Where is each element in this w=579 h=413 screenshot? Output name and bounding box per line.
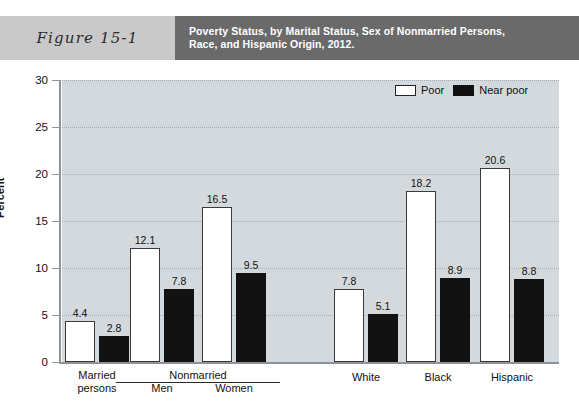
y-tick-mark	[52, 127, 59, 128]
bar-value-label: 5.1	[362, 300, 404, 312]
y-tick-label: 30	[2, 74, 48, 86]
y-tick-mark	[52, 174, 59, 175]
legend-item: Near poor	[453, 84, 528, 96]
figure-header: Figure 15-1 Poverty Status, by Marital S…	[0, 16, 579, 60]
legend-label: Near poor	[479, 84, 528, 96]
legend-swatch-black	[453, 85, 474, 96]
chart-legend: PoorNear poor	[395, 84, 528, 96]
y-tick-label: 25	[2, 121, 48, 133]
figure-title-line-2: Race, and Hispanic Origin, 2012.	[189, 38, 579, 52]
y-tick-mark	[52, 221, 59, 222]
y-axis-line	[59, 80, 61, 363]
y-tick-mark	[52, 268, 59, 269]
bar-near	[440, 278, 470, 362]
bar-poor	[480, 168, 510, 362]
figure-title-line-1: Poverty Status, by Marital Status, Sex o…	[189, 25, 579, 39]
x-axis-line	[59, 362, 559, 364]
legend-swatch-white	[395, 85, 416, 96]
x-tick-label-line: Hispanic	[462, 371, 562, 384]
y-tick-mark	[52, 315, 59, 316]
bar-near	[514, 279, 544, 362]
y-tick-label: 10	[2, 262, 48, 274]
y-tick-label: 20	[2, 168, 48, 180]
bar-value-label: 16.5	[196, 193, 238, 205]
gridline	[62, 80, 559, 81]
x-group-bracket	[116, 382, 280, 383]
y-tick-mark	[52, 80, 59, 81]
bar-value-label: 8.8	[508, 265, 550, 277]
bar-near	[236, 273, 266, 362]
bar-value-label: 2.8	[93, 322, 135, 334]
bar-poor	[334, 289, 364, 362]
bar-value-label: 7.8	[158, 275, 200, 287]
x-group-label-nonmarried: Nonmarried	[116, 369, 280, 382]
bar-value-label: 7.8	[328, 275, 370, 287]
figure-root: Figure 15-1 Poverty Status, by Marital S…	[0, 0, 579, 413]
y-tick-label: 5	[2, 309, 48, 321]
figure-title-band: Poverty Status, by Marital Status, Sex o…	[175, 16, 579, 60]
chart-container: Percent 051015202530 4.42.812.17.816.59.…	[0, 68, 579, 413]
bar-value-label: 18.2	[400, 177, 442, 189]
bar-value-label: 20.6	[474, 154, 516, 166]
x-tick-label-line: Women	[184, 382, 284, 395]
legend-item: Poor	[395, 84, 444, 96]
y-tick-mark	[52, 362, 59, 363]
gridline	[62, 127, 559, 128]
figure-number-label: Figure 15-1	[36, 29, 138, 47]
bar-value-label: 8.9	[434, 264, 476, 276]
bar-poor	[130, 248, 160, 362]
bar-near	[99, 336, 129, 362]
bar-poor	[65, 321, 95, 362]
bar-value-label: 4.4	[59, 307, 101, 319]
y-axis: 051015202530	[0, 68, 56, 363]
y-tick-label: 15	[2, 215, 48, 227]
x-axis-labels: MarriedpersonsMenWomenWhiteBlackHispanic…	[0, 365, 579, 413]
bar-value-label: 9.5	[230, 259, 272, 271]
bar-near	[164, 289, 194, 362]
legend-label: Poor	[421, 84, 444, 96]
bar-value-label: 12.1	[124, 234, 166, 246]
bar-near	[368, 314, 398, 362]
bar-poor	[406, 191, 436, 362]
x-tick-label: Women	[184, 382, 284, 395]
bar-poor	[202, 207, 232, 362]
figure-number-band: Figure 15-1	[0, 16, 175, 60]
x-tick-label: Hispanic	[462, 371, 562, 384]
plot-area: 4.42.812.17.816.59.57.85.118.28.920.68.8	[62, 80, 559, 362]
